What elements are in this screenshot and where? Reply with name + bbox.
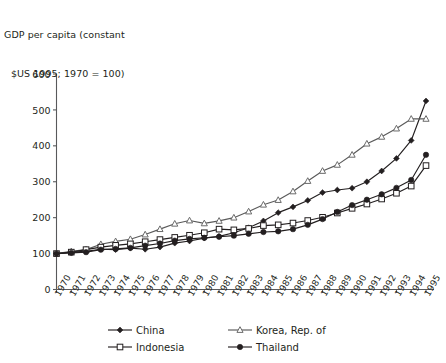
data-point xyxy=(187,236,192,241)
series-china xyxy=(54,98,429,256)
data-point xyxy=(157,241,162,246)
data-point xyxy=(202,230,208,236)
data-point xyxy=(231,227,237,233)
legend-label: Korea, Rep. of xyxy=(256,325,326,336)
legend-marker-open-square-icon xyxy=(117,344,123,350)
data-point xyxy=(83,249,88,254)
legend-label: Thailand xyxy=(255,342,299,353)
y-axis-tick-label: 500 xyxy=(32,105,50,116)
data-point xyxy=(305,178,311,184)
data-point xyxy=(275,197,281,203)
data-point xyxy=(290,188,296,194)
data-point xyxy=(394,190,400,196)
data-point xyxy=(423,152,428,157)
y-axis-tick-label: 400 xyxy=(32,140,50,151)
data-point xyxy=(231,233,236,238)
data-point xyxy=(290,204,296,210)
y-axis-tick-label: 100 xyxy=(32,248,50,259)
data-point xyxy=(216,234,221,239)
chart-title: GDP per capita (constant $US 1995; 1970 … xyxy=(4,2,125,106)
y-axis-tick-label: 0 xyxy=(44,284,50,295)
data-point xyxy=(423,163,429,169)
data-point xyxy=(172,238,177,243)
data-point xyxy=(290,226,295,231)
data-point xyxy=(275,222,281,228)
legend-item-indonesia[interactable]: Indonesia xyxy=(108,342,184,353)
data-point xyxy=(142,243,147,248)
data-point xyxy=(202,235,207,240)
x-axis: 1970197119721973197419751976197719781979… xyxy=(53,273,443,298)
data-point xyxy=(261,229,266,234)
data-point xyxy=(261,223,267,229)
legend-item-thailand[interactable]: Thailand xyxy=(228,342,299,353)
data-point xyxy=(305,198,311,204)
legend-marker-filled-circle-icon xyxy=(237,344,242,349)
data-point xyxy=(246,231,251,236)
y-axis-tick-label: 300 xyxy=(32,176,50,187)
data-point xyxy=(305,222,310,227)
y-axis-tick-label: 200 xyxy=(32,212,50,223)
data-point xyxy=(216,226,222,232)
data-point xyxy=(334,187,340,193)
data-point xyxy=(246,226,252,232)
data-point xyxy=(54,251,59,256)
data-series-group xyxy=(53,98,429,256)
legend-item-korea-rep-of[interactable]: Korea, Rep. of xyxy=(228,325,326,336)
data-point xyxy=(69,250,74,255)
data-point xyxy=(98,247,103,252)
chart-legend: ChinaKorea, Rep. ofIndonesiaThailand xyxy=(108,325,326,353)
data-point xyxy=(364,197,369,202)
data-point xyxy=(276,229,281,234)
data-point xyxy=(275,210,281,216)
chart-title-line-2: $US 1995; 1970 = 100) xyxy=(4,67,125,80)
data-point xyxy=(349,202,354,207)
chart-title-line-1: GDP per capita (constant xyxy=(4,28,125,41)
data-point xyxy=(335,209,340,214)
data-point xyxy=(423,98,429,104)
series-thailand xyxy=(54,152,429,256)
data-point xyxy=(408,183,414,189)
chart-figure: GDP per capita (constant $US 1995; 1970 … xyxy=(0,0,446,363)
legend-item-china[interactable]: China xyxy=(108,325,165,336)
legend-label: Indonesia xyxy=(136,342,184,353)
legend-marker-filled-diamond-icon xyxy=(117,327,123,333)
data-point xyxy=(113,246,118,251)
data-point xyxy=(334,162,340,168)
data-point xyxy=(394,185,399,190)
data-point xyxy=(349,152,355,158)
data-point xyxy=(320,190,326,196)
legend-label: China xyxy=(136,325,165,336)
data-point xyxy=(349,185,355,191)
data-point xyxy=(379,134,385,140)
data-point xyxy=(409,177,414,182)
data-point xyxy=(186,217,192,223)
data-point xyxy=(290,220,296,226)
data-point xyxy=(128,245,133,250)
data-point xyxy=(379,192,384,197)
data-point xyxy=(320,216,325,221)
data-point xyxy=(393,125,399,131)
